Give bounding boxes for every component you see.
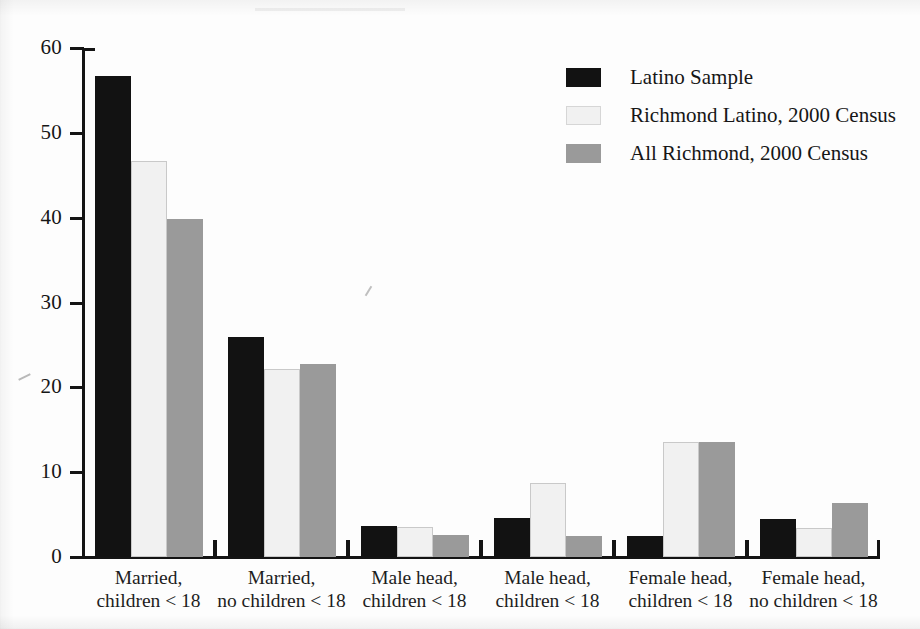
bar-3-series-3 <box>433 535 469 557</box>
legend-label: Latino Sample <box>630 62 753 92</box>
legend-entry-2: Richmond Latino, 2000 Census <box>566 100 896 138</box>
category-label-line1: Married, <box>215 566 348 589</box>
legend-white-swatch <box>566 106 601 125</box>
y-axis-tick-label: 50 <box>20 122 62 143</box>
category-label-line2: children < 18 <box>82 589 215 612</box>
legend-label: All Richmond, 2000 Census <box>630 138 868 168</box>
bar-6-series-3 <box>832 503 868 557</box>
y-axis-tick-label: 30 <box>20 292 62 313</box>
x-axis-category-label-2: Married,no children < 18 <box>215 566 348 612</box>
y-axis-tick-mark <box>70 217 84 220</box>
bar-6-series-1 <box>760 519 796 557</box>
x-axis-group-tick-2 <box>346 540 350 557</box>
y-axis-tick-label: 60 <box>20 37 62 58</box>
category-label-line2: children < 18 <box>348 589 481 612</box>
x-axis-category-label-5: Female head,children < 18 <box>614 566 747 612</box>
category-label-line1: Female head, <box>747 566 880 589</box>
y-axis-tick-mark <box>70 471 84 474</box>
y-axis-tick-label: 10 <box>20 461 62 482</box>
legend-label: Richmond Latino, 2000 Census <box>630 100 896 130</box>
y-axis-tick-mark <box>70 132 84 135</box>
category-label-line1: Female head, <box>614 566 747 589</box>
x-axis-right-cap-tick <box>877 540 880 559</box>
legend-entry-3: All Richmond, 2000 Census <box>566 138 896 176</box>
bar-5-series-1 <box>627 536 663 557</box>
x-axis-category-label-4: Male head,children < 18 <box>481 566 614 612</box>
x-axis-category-label-3: Male head,children < 18 <box>348 566 481 612</box>
x-axis-group-tick-3 <box>479 540 483 557</box>
bar-3-series-1 <box>361 526 397 557</box>
chart-page: 0102030405060 Married,children < 18Marri… <box>0 0 920 629</box>
x-axis-group-tick-5 <box>745 540 749 557</box>
legend-entry-1: Latino Sample <box>566 62 896 100</box>
bar-1-series-2 <box>131 161 167 557</box>
legend-gray-swatch <box>566 144 601 163</box>
bar-5-series-3 <box>699 442 735 557</box>
category-label-line2: children < 18 <box>481 589 614 612</box>
y-axis-tick-mark <box>70 386 84 389</box>
bar-6-series-2 <box>796 528 832 557</box>
category-label-line2: no children < 18 <box>215 589 348 612</box>
y-axis-tick-mark <box>70 556 84 559</box>
bar-2-series-3 <box>300 364 336 557</box>
y-axis-tick-mark <box>70 302 84 305</box>
y-axis-tick-label: 0 <box>20 546 62 567</box>
category-label-line2: no children < 18 <box>747 589 880 612</box>
category-label-line1: Male head, <box>481 566 614 589</box>
y-axis-tick-label: 40 <box>20 207 62 228</box>
bar-4-series-3 <box>566 536 602 557</box>
grouped-bar-chart: 0102030405060 Married,children < 18Marri… <box>0 0 920 629</box>
chart-legend: Latino SampleRichmond Latino, 2000 Censu… <box>566 62 896 176</box>
category-label-line2: children < 18 <box>614 589 747 612</box>
legend-black-swatch <box>566 68 601 87</box>
category-label-line1: Married, <box>82 566 215 589</box>
x-axis-category-label-6: Female head,no children < 18 <box>747 566 880 612</box>
bar-4-series-2 <box>530 483 566 557</box>
x-axis-group-tick-4 <box>612 540 616 557</box>
y-axis-tick-mark <box>70 47 84 50</box>
bar-1-series-1 <box>95 76 131 557</box>
bar-5-series-2 <box>663 442 699 557</box>
bar-2-series-2 <box>264 369 300 557</box>
bar-1-series-3 <box>167 219 203 557</box>
bar-2-series-1 <box>228 337 264 557</box>
category-label-line1: Male head, <box>348 566 481 589</box>
y-axis-tick-label: 20 <box>20 376 62 397</box>
bar-4-series-1 <box>494 518 530 557</box>
x-axis-group-tick-1 <box>213 540 217 557</box>
bar-3-series-2 <box>397 527 433 557</box>
x-axis-category-label-1: Married,children < 18 <box>82 566 215 612</box>
